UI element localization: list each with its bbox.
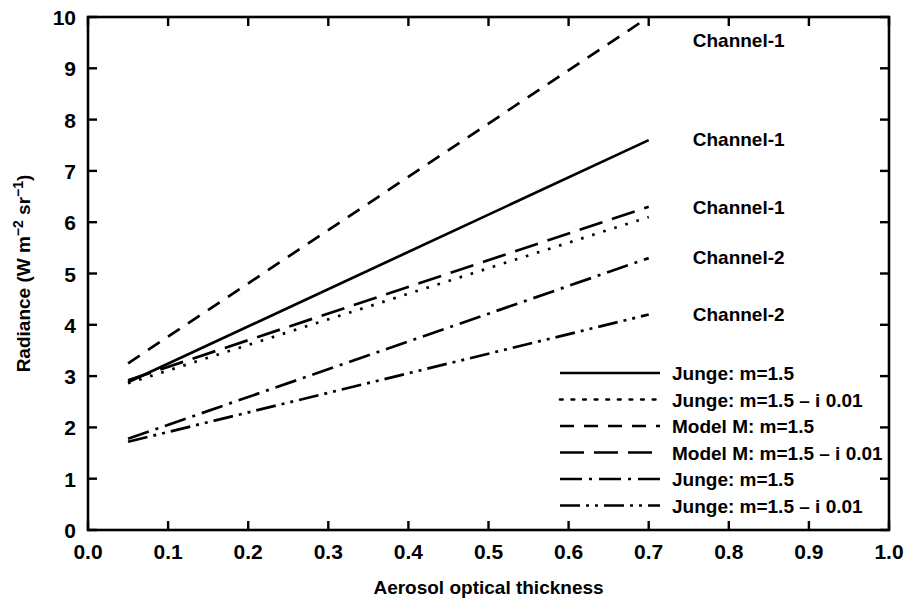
curve-label: Channel-1	[693, 197, 785, 218]
x-tick-label: 0.8	[714, 540, 744, 563]
x-tick-label: 0.5	[474, 540, 504, 563]
y-axis-title-text: Radiance (W m−2 sr−1)	[10, 175, 34, 373]
x-tick-label: 0.7	[634, 540, 663, 563]
y-tick-label: 6	[64, 211, 76, 234]
y-tick-label: 4	[64, 314, 76, 337]
legend-label: Model M: m=1.5 – i 0.01	[672, 443, 883, 464]
y-tick-label: 1	[64, 468, 76, 491]
radiance-vs-aerosol-optical-thickness-chart: Radiance (W m−2 sr−1) Aerosol optical th…	[0, 0, 918, 603]
y-tick-label: 3	[64, 365, 76, 388]
curve-label: Channel-1	[693, 129, 785, 150]
x-tick-label: 0.3	[314, 540, 343, 563]
legend-label: Junge: m=1.5	[672, 363, 794, 384]
x-tick-label: 0.0	[73, 540, 102, 563]
curve-label: Channel-2	[693, 304, 785, 325]
legend-label: Junge: m=1.5 – i 0.01	[672, 390, 863, 411]
y-tick-label: 8	[64, 109, 76, 132]
x-tick-label: 0.9	[794, 540, 823, 563]
curve-label: Channel-1	[693, 30, 785, 51]
x-tick-label: 1.0	[874, 540, 903, 563]
curve-label: Channel-2	[693, 247, 785, 268]
y-tick-label: 5	[64, 263, 76, 286]
x-axis-title-text: Aerosol optical thickness	[373, 577, 603, 598]
x-tick-label: 0.2	[234, 540, 263, 563]
y-tick-label: 7	[64, 160, 76, 183]
y-axis-title: Radiance (W m−2 sr−1)	[10, 175, 34, 373]
x-axis-title: Aerosol optical thickness	[373, 577, 603, 598]
x-tick-label: 0.4	[394, 540, 424, 563]
chart-figure: Radiance (W m−2 sr−1) Aerosol optical th…	[0, 0, 918, 603]
y-tick-label: 9	[64, 57, 76, 80]
legend-label: Junge: m=1.5	[672, 469, 794, 490]
y-tick-label: 10	[53, 6, 76, 29]
y-tick-label: 0	[64, 519, 76, 542]
legend-label: Model M: m=1.5	[672, 416, 814, 437]
y-tick-label: 2	[64, 416, 76, 439]
x-tick-label: 0.1	[153, 540, 183, 563]
legend-label: Junge: m=1.5 – i 0.01	[672, 496, 863, 517]
x-tick-label: 0.6	[554, 540, 583, 563]
